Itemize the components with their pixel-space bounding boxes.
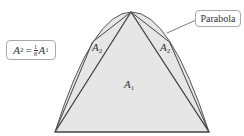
parabola-leader-line (167, 20, 196, 33)
formula-fraction: 1 8 (34, 44, 38, 57)
a1-var: A (124, 78, 131, 90)
formula-lhs-var: A (13, 44, 20, 56)
region-label-a2-left: A2 (92, 41, 102, 55)
a2-right-var: A (160, 41, 167, 53)
fraction-denominator: 8 (34, 51, 37, 57)
a2-left-sub: 2 (99, 47, 103, 55)
formula-callout: A2 = 1 8 A1 (6, 40, 56, 60)
formula-lhs-sub: 2 (20, 46, 24, 54)
formula-rhs-sub: 1 (45, 46, 49, 54)
region-label-a1: A1 (124, 78, 134, 92)
region-label-a2-right: A2 (160, 41, 170, 55)
formula-rhs-var: A (39, 44, 46, 56)
parabola-callout: Parabola (195, 10, 241, 27)
a2-right-sub: 2 (167, 47, 171, 55)
parabola-label-text: Parabola (201, 13, 236, 24)
formula-equals: = (25, 44, 31, 56)
a2-left-var: A (92, 41, 99, 53)
a1-sub: 1 (131, 84, 135, 92)
